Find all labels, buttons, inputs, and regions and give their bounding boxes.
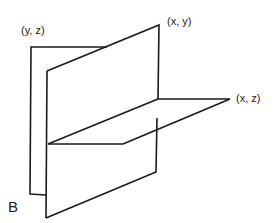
xy-plane-label: (x, y) <box>167 15 191 27</box>
xz-plane-front-diagonal <box>123 99 230 144</box>
figure-label: B <box>8 198 18 215</box>
yz-plane-outline <box>30 47 107 195</box>
xy-plane-upper <box>47 25 159 99</box>
xy-plane-lower <box>46 118 157 218</box>
xz-plane-label: (x, z) <box>236 92 260 104</box>
xz-plane-back-left-edge <box>48 99 158 144</box>
yz-plane-label: (y, z) <box>21 24 45 36</box>
xy-plane-left-edge <box>46 71 47 218</box>
